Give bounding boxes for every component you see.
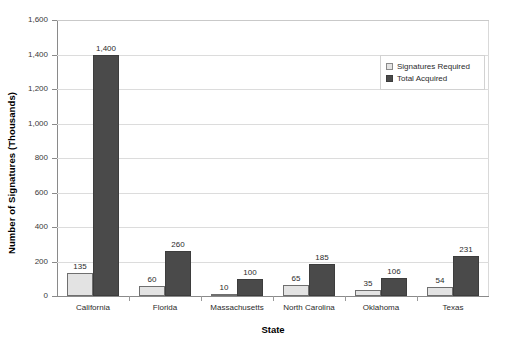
y-tick-mark	[52, 193, 57, 194]
bar-value-label: 100	[227, 268, 273, 277]
y-tick-mark	[52, 55, 57, 56]
bar-oklahoma-acquired	[381, 278, 407, 296]
bar-value-label: 260	[155, 240, 201, 249]
bar-florida-acquired	[165, 251, 191, 296]
gridline	[57, 20, 489, 21]
legend-label: Signatures Required	[397, 62, 470, 71]
x-tick-mark	[345, 296, 346, 301]
x-tick-label-north-carolina: North Carolina	[273, 303, 345, 312]
x-tick-mark	[201, 296, 202, 301]
y-tick-label: 200	[2, 258, 48, 266]
x-tick-label-california: California	[57, 303, 129, 312]
x-tick-mark	[417, 296, 418, 301]
x-tick-label-texas: Texas	[417, 303, 489, 312]
y-tick-mark	[52, 20, 57, 21]
x-tick-label-massachusetts: Massachusetts	[201, 303, 273, 312]
y-tick-label: 0	[2, 292, 48, 300]
x-tick-mark	[129, 296, 130, 301]
bar-oklahoma-required	[355, 290, 381, 296]
legend-swatch-icon	[386, 75, 393, 82]
legend-item-signatures-required: Signatures Required	[386, 61, 479, 72]
bar-texas-acquired	[453, 256, 479, 296]
y-tick-mark	[52, 158, 57, 159]
gridline	[57, 262, 489, 263]
y-tick-label: 1,200	[2, 85, 48, 93]
legend-item-total-acquired: Total Acquired	[386, 73, 479, 84]
y-tick-label: 400	[2, 223, 48, 231]
y-tick-label: 800	[2, 154, 48, 162]
x-tick-mark	[273, 296, 274, 301]
legend-swatch-icon	[386, 63, 393, 70]
bar-chart: Number of Signatures (Thousands) 1,6001,…	[0, 0, 506, 346]
gridline	[57, 227, 489, 228]
y-tick-label: 1,000	[2, 120, 48, 128]
bar-value-label: 1,400	[83, 44, 129, 53]
gridline	[57, 193, 489, 194]
x-tick-label-florida: Florida	[129, 303, 201, 312]
gridline	[57, 124, 489, 125]
bar-value-label: 106	[371, 267, 417, 276]
y-tick-mark	[52, 227, 57, 228]
gridline	[57, 158, 489, 159]
chart-legend: Signatures RequiredTotal Acquired	[380, 55, 485, 90]
y-tick-label: 600	[2, 189, 48, 197]
x-axis-title: State	[57, 324, 489, 335]
y-tick-mark	[52, 89, 57, 90]
bar-value-label: 231	[443, 245, 489, 254]
y-tick-label: 1,600	[2, 16, 48, 24]
bar-north-carolina-required	[283, 285, 309, 296]
legend-label: Total Acquired	[397, 74, 447, 83]
bar-texas-required	[427, 287, 453, 296]
bar-california-acquired	[93, 55, 119, 297]
y-tick-mark	[52, 296, 57, 297]
bar-california-required	[67, 273, 93, 296]
bar-massachusetts-required	[211, 294, 237, 296]
y-tick-label: 1,400	[2, 51, 48, 59]
x-tick-label-oklahoma: Oklahoma	[345, 303, 417, 312]
bar-florida-required	[139, 286, 165, 296]
bar-massachusetts-acquired	[237, 279, 263, 296]
bar-north-carolina-acquired	[309, 264, 335, 296]
bar-value-label: 185	[299, 253, 345, 262]
y-tick-mark	[52, 124, 57, 125]
